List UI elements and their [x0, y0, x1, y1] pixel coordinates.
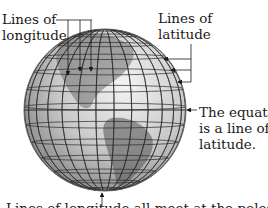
longitude-label: Lines of longitude	[2, 11, 67, 43]
equator-label: The equator is a line of latitude.	[199, 104, 268, 152]
equator-label-line-2: is a line of	[199, 120, 268, 136]
longitude-label-line-1: Lines of	[2, 11, 67, 27]
latitude-label-line-2: latitude	[158, 26, 212, 42]
latitude-label-line-1: Lines of	[158, 10, 212, 26]
longitude-label-line-2: longitude	[2, 27, 67, 43]
equator-label-line-3: latitude.	[199, 136, 268, 152]
pole-caption-truncated: Lines of longitude all meet at the poles…	[6, 200, 268, 208]
latitude-label: Lines of latitude	[158, 10, 212, 42]
equator-label-line-1: The equator	[199, 104, 268, 120]
